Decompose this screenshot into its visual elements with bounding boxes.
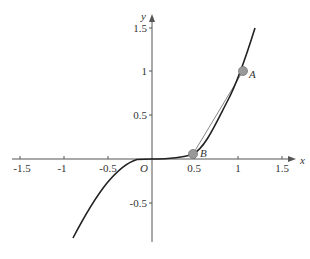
chart: -1.5 -1 -0.5 0.5 1 1.5 1.5 1 0.5 -0.5 x …	[0, 0, 310, 259]
x-tick-label: 0.5	[187, 162, 201, 174]
origin-label: O	[140, 162, 148, 174]
y-axis-arrow-icon	[149, 14, 155, 22]
y-tick-label: 1	[142, 65, 148, 77]
point-a	[239, 67, 248, 76]
point-b-label: B	[200, 147, 207, 159]
x-tick-label: -0.5	[99, 162, 117, 174]
x-tick-label: 1.5	[275, 162, 289, 174]
x-tick-label: -1.5	[13, 162, 31, 174]
x-axis-arrow-icon	[288, 156, 296, 162]
point-a-label: A	[248, 68, 256, 80]
function-curve	[73, 28, 255, 238]
x-tick-label: 1	[235, 162, 241, 174]
y-tick-label: 1.5	[133, 22, 147, 34]
y-tick-label: -0.5	[130, 197, 148, 209]
x-tick-label: -1	[57, 162, 66, 174]
x-axis-label: x	[299, 154, 305, 166]
point-b	[189, 150, 198, 159]
y-axis-label: y	[140, 10, 146, 22]
y-tick-label: 0.5	[133, 109, 147, 121]
